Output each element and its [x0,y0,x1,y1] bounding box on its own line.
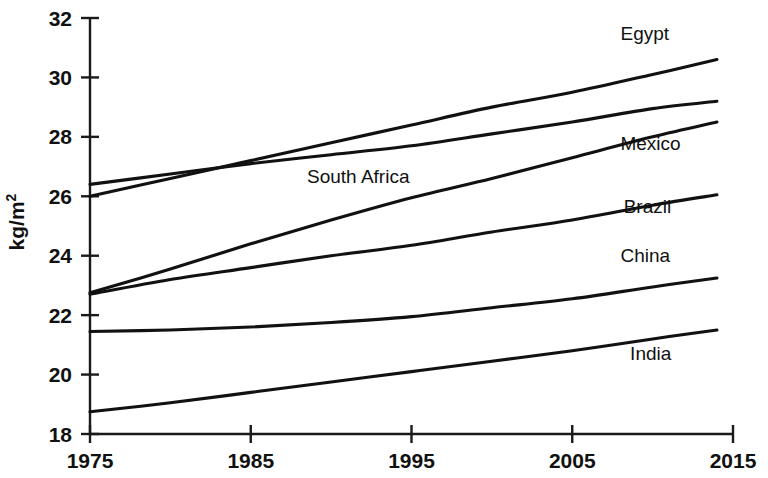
y-axis-tick-labels: 1820222426283032 [49,7,73,446]
series-label-india: India [630,343,672,364]
y-tick-label: 28 [49,125,73,148]
line-chart: 1820222426283032 19751985199520052015 Eg… [0,0,768,478]
series-label-china: China [620,245,670,266]
x-tick-label: 2005 [549,449,596,472]
series-label-egypt: Egypt [620,23,669,44]
series-label-south-africa: South Africa [307,166,410,187]
x-tick-label: 1995 [388,449,435,472]
x-tick-label: 1975 [67,449,114,472]
y-tick-label: 30 [49,66,72,89]
y-axis-title: kg/m2 [3,193,28,250]
y-tick-label: 32 [49,7,72,30]
x-tick-label: 1985 [227,449,274,472]
chart-canvas: 1820222426283032 19751985199520052015 Eg… [0,0,768,478]
series-line-india [90,330,717,412]
series-label-mexico: Mexico [620,133,680,154]
x-axis-tick-labels: 19751985199520052015 [67,449,757,472]
series-line-china [90,278,717,331]
series-lines [90,60,717,412]
x-tick-label: 2015 [710,449,757,472]
y-tick-label: 20 [49,363,72,386]
y-tick-label: 22 [49,304,72,327]
y-tick-label: 24 [49,244,73,267]
series-label-brazil: Brazil [624,196,672,217]
y-tick-label: 26 [49,185,72,208]
y-tick-label: 18 [49,423,73,446]
series-labels: EgyptSouth AfricaMexicoBrazilChinaIndia [307,23,681,363]
